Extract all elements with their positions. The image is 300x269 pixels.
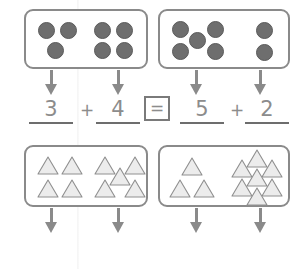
dots-left-box (24, 9, 148, 69)
plus-operator: + (229, 98, 245, 122)
dot (94, 42, 111, 59)
triangles-left-box (24, 145, 148, 207)
dot (94, 22, 111, 39)
arrow-head (254, 222, 266, 233)
dot (172, 43, 189, 60)
arrow-head (45, 84, 57, 95)
worksheet-row-triangles: 4 + 5 X 3 + 7 (0, 135, 300, 269)
dot (189, 32, 206, 49)
dots-right-box (158, 9, 290, 69)
arrow-head (112, 222, 124, 233)
worksheet-page: 3 + 4 = 5 + 2 (0, 0, 300, 269)
triangle (182, 158, 202, 175)
arrow-head (190, 84, 202, 95)
triangle-group-svg (160, 147, 292, 209)
dots-right-box-shapes (160, 11, 288, 67)
dot (172, 21, 189, 38)
answer-left-term-1[interactable]: 3 (29, 98, 73, 124)
arrow-down (45, 208, 58, 234)
arrow-head (112, 84, 124, 95)
dot (207, 43, 224, 60)
triangle (62, 180, 82, 197)
triangle (38, 157, 58, 174)
arrow-down (112, 70, 125, 96)
dot (256, 22, 273, 39)
equation-row-dots: 3 + 4 = 5 + 2 (0, 98, 300, 130)
triangle-group-svg (26, 147, 150, 209)
arrow-head (45, 222, 57, 233)
dot (38, 22, 55, 39)
dot (60, 22, 77, 39)
arrow-down (112, 208, 125, 234)
triangles-right-box (158, 145, 290, 207)
dot (207, 21, 224, 38)
triangles-right-box-shapes (160, 147, 288, 205)
dot (116, 22, 133, 39)
triangles-left-box-shapes (26, 147, 146, 205)
triangle (95, 157, 115, 174)
triangle (247, 150, 267, 167)
dot (47, 42, 64, 59)
triangle (125, 157, 145, 174)
arrow-down (254, 70, 267, 96)
answer-right-term-1[interactable]: 5 (180, 98, 224, 124)
comparison-symbol-box[interactable]: = (144, 96, 170, 121)
answer-right-term-2[interactable]: 2 (245, 98, 289, 124)
arrow-head (190, 222, 202, 233)
arrow-down (254, 208, 267, 234)
arrow-head (254, 84, 266, 95)
arrow-down (190, 70, 203, 96)
arrow-down (45, 70, 58, 96)
worksheet-row-dots: 3 + 4 = 5 + 2 (0, 0, 300, 135)
dots-left-box-shapes (26, 11, 146, 67)
dot (256, 44, 273, 61)
triangle (38, 180, 58, 197)
answer-left-term-2[interactable]: 4 (96, 98, 140, 124)
triangle (62, 157, 82, 174)
triangle (170, 180, 190, 197)
arrow-down (190, 208, 203, 234)
dot (116, 42, 133, 59)
triangle (194, 180, 214, 197)
plus-operator: + (79, 98, 95, 122)
